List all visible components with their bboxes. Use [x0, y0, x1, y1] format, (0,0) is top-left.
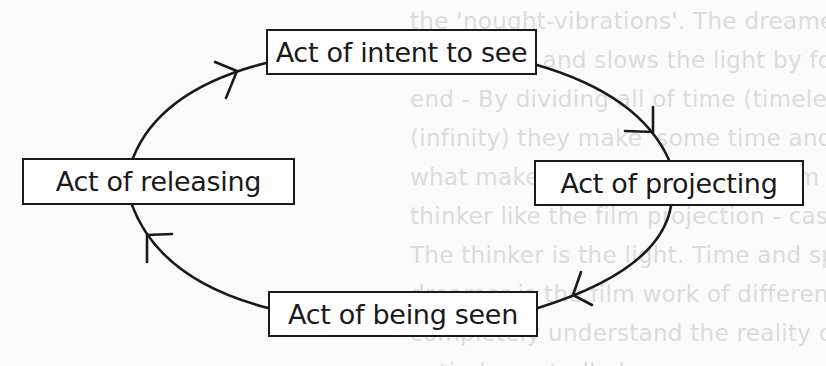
node-being-seen: Act of being seen [268, 291, 538, 337]
node-label: Act of intent to see [276, 37, 528, 68]
edge-bottom-to-left [132, 205, 268, 308]
node-label: Act of being seen [288, 299, 518, 330]
node-projecting: Act of projecting [534, 160, 804, 206]
diagram-canvas: the 'nought-vibrations'. The dreamer is … [0, 0, 826, 366]
node-intent-to-see: Act of intent to see [266, 29, 537, 75]
edge-top-to-right [537, 65, 669, 160]
edge-left-to-top [133, 63, 266, 158]
node-label: Act of releasing [56, 166, 261, 197]
edge-right-to-bottom [538, 206, 671, 308]
node-label: Act of projecting [561, 168, 778, 199]
node-releasing: Act of releasing [22, 158, 295, 205]
